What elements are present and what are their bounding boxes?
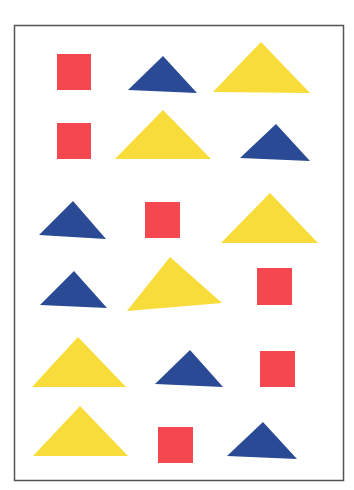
yellow-triangle-r4-c2 [127,257,222,311]
blue-triangle-r5-c2 [155,350,223,387]
red-square-r4-c3 [257,268,292,305]
red-square-r5-c3 [260,351,295,387]
blue-triangle-r1-c2 [128,56,197,93]
shapes-figure [0,0,354,490]
red-square-r2-c1 [57,123,91,159]
red-square-r1-c1 [57,54,91,90]
blue-triangle-r4-c1 [40,271,107,308]
yellow-triangle-r2-c2 [115,110,211,159]
blue-triangle-r2-c3 [240,124,310,161]
figure-frame [15,26,344,481]
blue-triangle-r3-c1 [39,201,106,239]
yellow-triangle-r6-c1 [33,406,128,456]
red-square-r3-c2 [145,202,180,238]
shapes-group [32,42,318,463]
yellow-triangle-r5-c1 [32,337,126,387]
yellow-triangle-r1-c3 [213,42,310,93]
yellow-triangle-r3-c3 [221,193,318,243]
blue-triangle-r6-c3 [227,422,297,459]
red-square-r6-c2 [158,427,193,463]
